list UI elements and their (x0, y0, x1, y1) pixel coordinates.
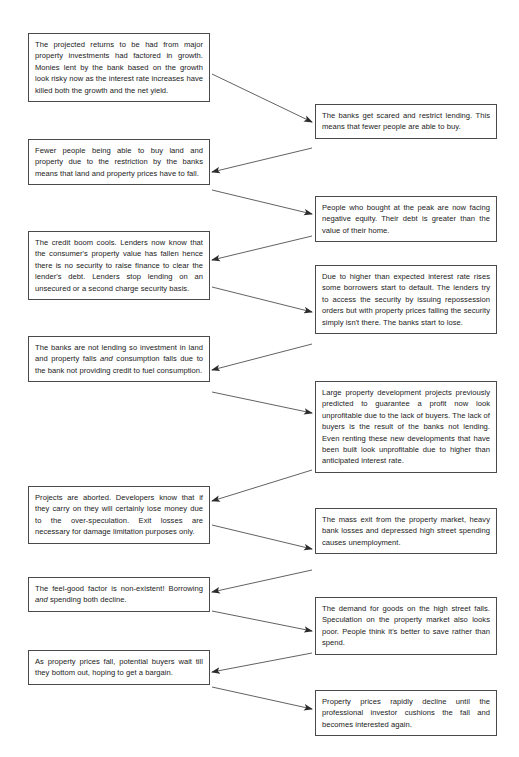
node-n14: Property prices rapidly decline until th… (315, 690, 497, 736)
node-n5: The credit boom cools. Lenders now know … (28, 231, 210, 300)
node-n11: The feel-good factor is non-existent! Bo… (28, 577, 210, 612)
node-n3-text: Fewer people being able to buy land and … (35, 146, 203, 178)
node-n10-text: The mass exit from the property market, … (322, 515, 490, 547)
arrow-n8-n9 (212, 470, 312, 501)
node-n2: The banks get scared and restrict lendin… (315, 104, 497, 139)
node-n5-text: The credit boom cools. Lenders now know … (35, 238, 203, 293)
arrow-n10-n11 (212, 570, 312, 592)
node-n9: Projects are aborted. Developers know th… (28, 486, 210, 544)
arrow-n9-n10 (212, 525, 312, 549)
node-n9-text: Projects are aborted. Developers know th… (35, 493, 203, 536)
arrow-n13-n14 (212, 687, 312, 709)
node-n7: The banks are not lending so investment … (28, 336, 210, 382)
node-n2-text: The banks get scared and restrict lendin… (322, 111, 490, 131)
node-n10: The mass exit from the property market, … (315, 508, 497, 554)
node-n11-emphasis: and (35, 595, 48, 604)
arrow-n5-n6 (212, 287, 312, 312)
arrow-n2-n3 (212, 148, 312, 172)
node-n6-text: Due to higher than expected interest rat… (322, 272, 490, 327)
arrow-n4-n5 (212, 236, 312, 260)
node-n1: The projected returns to be had from maj… (28, 33, 210, 102)
node-n4-text: People who bought at the peak are now fa… (322, 203, 490, 235)
node-n12-text: The demand for goods on the high street … (322, 604, 490, 647)
node-n11-text-after: spending both decline. (48, 595, 127, 604)
node-n14-text: Property prices rapidly decline until th… (322, 697, 490, 729)
node-n13: As property prices fall, potential buyer… (28, 650, 210, 685)
node-n12: The demand for goods on the high street … (315, 597, 497, 655)
arrow-n11-n12 (212, 611, 312, 631)
arrow-n3-n4 (212, 190, 312, 214)
node-n13-text: As property prices fall, potential buyer… (35, 657, 203, 677)
node-n6: Due to higher than expected interest rat… (315, 265, 497, 334)
node-n8: Large property development projects prev… (315, 381, 497, 473)
node-n4: People who bought at the peak are now fa… (315, 196, 497, 242)
node-n8-text: Large property development projects prev… (322, 388, 490, 465)
node-n7-emphasis: and (100, 354, 113, 363)
arrow-n6-n7 (212, 344, 312, 370)
arrow-n7-n8 (212, 392, 312, 413)
node-n11-text-before: The feel-good factor is non-existent! Bo… (35, 584, 203, 593)
node-n1-text: The projected returns to be had from maj… (35, 40, 203, 95)
arrow-n1-n2 (212, 74, 312, 122)
node-n3: Fewer people being able to buy land and … (28, 139, 210, 185)
arrow-n12-n13 (212, 653, 312, 672)
flowchart-canvas: The projected returns to be had from maj… (0, 0, 519, 757)
